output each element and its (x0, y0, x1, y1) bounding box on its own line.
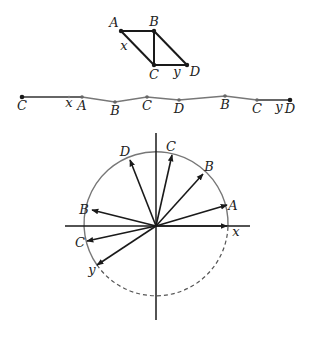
vector-chain-figure: CABCDBCDxy (17, 94, 296, 118)
vector-label-b: B (203, 159, 214, 174)
label-c: C (149, 67, 159, 82)
label-a: A (108, 15, 118, 30)
chain-label-x: x (65, 95, 73, 110)
edge-bd (154, 31, 187, 65)
point-a (119, 29, 123, 33)
parallelogram-figure: ABCDxy (108, 14, 200, 82)
vector-b-1 (156, 174, 203, 226)
vector-label-y: y (87, 262, 96, 277)
vector-label-x: x (232, 224, 240, 239)
vector-label-c: C (166, 139, 176, 154)
point-b (152, 29, 156, 33)
geometry-diagram: ABCDxy CABCDBCDxy ABCDBCyx (0, 0, 310, 339)
point-d (185, 63, 189, 67)
chain-label-d: D (173, 101, 185, 116)
chain-label-c2: C (142, 98, 152, 113)
label-d: D (189, 64, 201, 79)
vector-b-4 (92, 210, 156, 226)
vector-label-c: C (75, 235, 85, 250)
chain-label-a: A (76, 98, 86, 113)
chain-label-c: C (17, 98, 27, 113)
circle-arc-dashed (97, 226, 228, 296)
label-b: B (148, 14, 159, 29)
vector-label-a: A (227, 198, 237, 213)
vector-d-3 (130, 160, 156, 226)
chain-label-d2: D (284, 101, 296, 116)
chain-label-b: B (109, 103, 120, 118)
chain-label-c3: C (252, 101, 262, 116)
label-y: y (172, 64, 181, 79)
label-x: x (120, 38, 128, 53)
vector-label-d: D (119, 144, 131, 159)
vector-c-2 (156, 155, 172, 226)
unit-circle-figure: ABCDBCyx (65, 133, 250, 320)
vector-label-b: B (78, 202, 89, 217)
vector-a-0 (156, 205, 227, 226)
chain-path (82, 96, 257, 102)
chain-label-b2: B (219, 97, 230, 112)
chain-label-y: y (274, 99, 283, 114)
